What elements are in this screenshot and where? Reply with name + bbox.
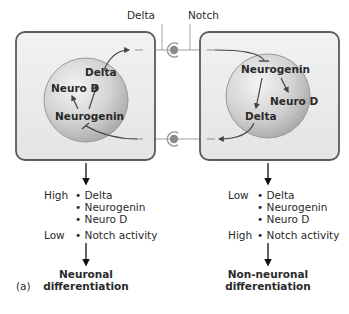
left-item-neurogenin: • Neurogenin [75,201,145,213]
right-level-high: High [228,229,252,241]
right-item-neurod: • Neuro D [257,213,309,225]
right-level-low: Low [228,189,249,201]
left-item-neurod: • Neuro D [75,213,127,225]
left-level-high: High [44,189,68,201]
delta-ligand-label: Delta [127,9,155,21]
right-item-notch-activity: • Notch activity [257,229,339,241]
left-outcome: Neuronal differentiation [36,268,136,292]
right-nucleus-neurod-label: Neuro D [270,95,318,107]
right-item-neurogenin: • Neurogenin [257,201,327,213]
left-cell [16,32,155,160]
left-nucleus-neurogenin-label: Neurogenin [55,110,124,122]
right-nucleus-neurogenin-label: Neurogenin [241,63,310,75]
left-level-low: Low [44,229,65,241]
notch-receptor-label: Notch [188,9,219,21]
left-item-delta: • Delta [75,189,113,201]
left-item-notch-activity: • Notch activity [75,229,157,241]
left-nucleus-neurod-label: Neuro D [51,82,99,94]
figure-panel-label: (a) [16,280,31,292]
right-nucleus-delta-label: Delta [245,110,277,122]
left-nucleus-delta-label: Delta [85,66,117,78]
right-outcome: Non-neuronal differentiation [218,268,318,292]
diagram-canvas [0,0,349,314]
right-item-delta: • Delta [257,189,295,201]
